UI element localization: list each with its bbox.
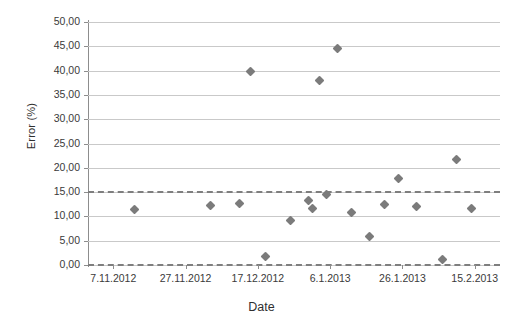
y-tick-label: 45,00 (36, 39, 80, 51)
x-axis-title: Date (0, 300, 523, 314)
y-tick-label: 50,00 (36, 15, 80, 27)
y-tick-label: 40,00 (36, 64, 80, 76)
data-point (394, 174, 404, 184)
y-gridline (88, 119, 500, 120)
y-tick-label: 20,00 (36, 161, 80, 173)
data-point (452, 154, 462, 164)
y-tick-label: 25,00 (36, 137, 80, 149)
y-tick-label: 30,00 (36, 112, 80, 124)
plot-area (88, 22, 500, 265)
x-tick-mark (475, 265, 476, 269)
x-tick-mark (113, 265, 114, 269)
y-tick-mark (84, 168, 88, 169)
y-tick-mark (84, 144, 88, 145)
scatter-chart: Error (%) Date 0,005,0010,0015,0020,0025… (0, 0, 523, 328)
data-point (130, 205, 140, 215)
y-tick-mark (84, 46, 88, 47)
lower-control-limit (88, 264, 500, 266)
y-tick-mark (84, 22, 88, 23)
data-point (332, 43, 342, 53)
y-tick-mark (84, 95, 88, 96)
x-tick-mark (402, 265, 403, 269)
data-point (314, 75, 324, 85)
y-gridline (88, 95, 500, 96)
data-point (466, 203, 476, 213)
y-gridline (88, 46, 500, 47)
data-point (379, 199, 389, 209)
upper-control-limit (88, 191, 500, 193)
y-gridline (88, 22, 500, 23)
y-gridline (88, 144, 500, 145)
data-point (260, 251, 270, 261)
y-tick-mark (84, 119, 88, 120)
data-point (235, 198, 245, 208)
data-point (246, 66, 256, 76)
y-tick-mark (84, 216, 88, 217)
y-tick-label: 0,00 (36, 258, 80, 270)
x-tick-label: 15.2.2013 (430, 272, 520, 284)
x-tick-mark (330, 265, 331, 269)
data-point (412, 202, 422, 212)
y-tick-label: 15,00 (36, 185, 80, 197)
x-tick-mark (186, 265, 187, 269)
y-gridline (88, 241, 500, 242)
y-tick-mark (84, 71, 88, 72)
y-gridline (88, 168, 500, 169)
data-point (206, 200, 216, 210)
x-tick-mark (258, 265, 259, 269)
y-tick-label: 5,00 (36, 234, 80, 246)
y-tick-label: 35,00 (36, 88, 80, 100)
y-tick-mark (84, 241, 88, 242)
y-gridline (88, 216, 500, 217)
y-gridline (88, 71, 500, 72)
y-tick-label: 10,00 (36, 209, 80, 221)
